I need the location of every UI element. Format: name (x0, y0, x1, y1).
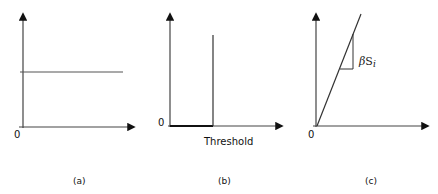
caption-b: (b) (218, 176, 231, 186)
figure-canvas: 0 (a) 0 Threshold (b) βSi 0 (c) (0, 0, 438, 194)
origin-label: 0 (158, 117, 164, 128)
slope-var: S (365, 55, 373, 68)
slope-sub: i (373, 59, 376, 69)
caption-c: (c) (365, 176, 377, 186)
threshold-label: Threshold (203, 136, 253, 147)
slope-greek: β (358, 55, 365, 68)
slope-label: βSi (358, 55, 376, 69)
caption-a: (a) (73, 176, 86, 186)
origin-label: 0 (308, 129, 314, 140)
origin-label: 0 (14, 129, 20, 140)
panel-c: βSi 0 (c) (308, 14, 428, 186)
linear-line (317, 14, 361, 126)
panel-a: 0 (a) (14, 14, 134, 186)
panel-b: 0 Threshold (b) (158, 14, 282, 186)
